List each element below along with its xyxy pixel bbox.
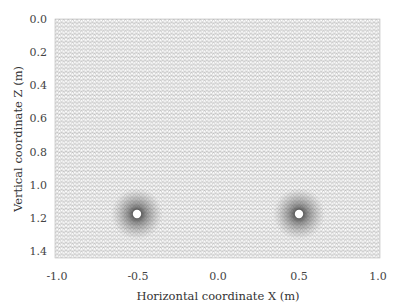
svg-text:1.2: 1.2 bbox=[30, 212, 48, 225]
svg-text:1.0: 1.0 bbox=[30, 179, 48, 192]
mesh-area bbox=[55, 19, 380, 258]
svg-text:-1.0: -1.0 bbox=[46, 270, 67, 283]
svg-text:1.4: 1.4 bbox=[30, 245, 48, 258]
svg-text:0.2: 0.2 bbox=[30, 46, 48, 59]
mesh-figure: 0.0 0.2 0.4 0.6 0.8 1.0 1.2 1.4 -1.0 -0.… bbox=[0, 0, 399, 307]
svg-text:1.0: 1.0 bbox=[369, 270, 387, 283]
hole-left bbox=[133, 210, 141, 218]
x-axis-label: Horizontal coordinate X (m) bbox=[136, 289, 299, 303]
svg-text:0.8: 0.8 bbox=[30, 146, 48, 159]
y-axis-ticks: 0.0 0.2 0.4 0.6 0.8 1.0 1.2 1.4 bbox=[30, 13, 48, 258]
svg-text:0.4: 0.4 bbox=[30, 79, 48, 92]
hole-right bbox=[295, 210, 303, 218]
svg-text:-0.5: -0.5 bbox=[127, 270, 148, 283]
y-axis-label: Vertical coordinate Z (m) bbox=[11, 66, 25, 213]
svg-text:0.0: 0.0 bbox=[209, 270, 227, 283]
svg-text:0.5: 0.5 bbox=[290, 270, 308, 283]
svg-text:0.6: 0.6 bbox=[30, 112, 48, 125]
svg-text:0.0: 0.0 bbox=[30, 13, 48, 26]
x-axis-ticks: -1.0 -0.5 0.0 0.5 1.0 bbox=[46, 270, 386, 283]
